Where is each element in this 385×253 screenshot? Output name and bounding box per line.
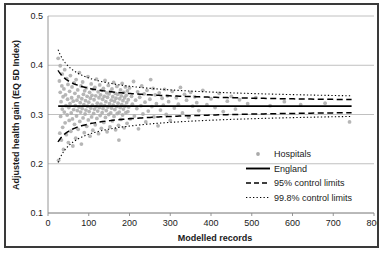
funnel-plot-chart: 0.10.20.30.40.5 010020030040050060070080… (6, 5, 377, 246)
x-tick-label: 100 (81, 218, 96, 228)
hospital-point (119, 88, 123, 92)
hospital-point (112, 115, 116, 119)
hospital-point (246, 102, 250, 106)
x-tick-label: 300 (163, 218, 178, 228)
hospital-point (109, 111, 113, 115)
hospital-point (144, 120, 148, 124)
legend-label: Hospitals (274, 149, 312, 159)
hospital-point (234, 107, 238, 111)
hospital-point (141, 112, 145, 116)
hospital-point (77, 95, 81, 99)
hospital-point (148, 97, 152, 101)
hospital-point (167, 100, 171, 104)
hospital-point (56, 56, 60, 60)
hospital-point (84, 108, 88, 112)
hospital-point (58, 79, 62, 83)
hospital-point (179, 86, 183, 90)
hospital-point (94, 94, 98, 98)
hospital-point (104, 109, 108, 113)
hospital-point (76, 88, 80, 92)
hospital-point (61, 125, 65, 129)
hospital-point (95, 117, 99, 121)
hospital-point (106, 95, 110, 99)
hospital-point (102, 94, 106, 98)
hospital-point (156, 124, 160, 128)
hospital-point (104, 116, 108, 120)
hospital-point (132, 80, 136, 84)
hospital-point (90, 93, 94, 97)
hospital-point (70, 85, 74, 89)
hospital-point (195, 101, 199, 105)
hospital-point (125, 121, 129, 125)
hospital-point (88, 90, 92, 94)
hospital-point (59, 115, 63, 119)
hospital-point (168, 119, 172, 123)
hospital-point (70, 96, 74, 100)
hospital-point (185, 98, 189, 102)
x-axis-title: Modelled records (178, 233, 253, 243)
hospital-point (63, 121, 67, 125)
hospital-point (73, 91, 77, 95)
hospital-point (117, 123, 121, 127)
hospital-point (89, 82, 93, 86)
x-tick-label: 600 (285, 218, 300, 228)
hospital-point (71, 99, 75, 103)
hospital-point (64, 93, 68, 97)
hospital-point (92, 112, 96, 116)
hospital-point (68, 89, 72, 93)
hospital-point (69, 129, 73, 133)
hospital-point (348, 120, 352, 124)
hospital-point (63, 68, 67, 72)
hospital-point (62, 87, 66, 91)
hospital-point (66, 97, 70, 101)
hospital-point (69, 74, 73, 78)
hospital-point (155, 102, 159, 106)
hospital-point (58, 90, 62, 94)
legend-label: England (274, 164, 307, 174)
hospital-point (124, 93, 128, 97)
hospital-point (126, 110, 130, 114)
hospital-point (75, 98, 79, 102)
plot-background (6, 5, 377, 246)
legend-label: 95% control limits (274, 178, 345, 188)
hospital-point (90, 115, 94, 119)
hospital-point (100, 111, 104, 115)
hospital-point (126, 98, 130, 102)
hospital-point (197, 109, 201, 113)
hospital-point (108, 102, 112, 106)
hospital-point (225, 99, 229, 103)
hospital-point (71, 117, 75, 121)
hospital-point (130, 94, 134, 98)
hospital-point (59, 100, 63, 104)
hospital-point (99, 126, 103, 130)
y-tick-label: 0.1 (30, 208, 43, 218)
legend-label: 99.8% control limits (274, 193, 353, 203)
hospital-point (69, 111, 73, 115)
hospital-point (132, 114, 136, 118)
hospital-point (83, 112, 87, 116)
hospital-point (91, 128, 95, 132)
hospital-point (111, 95, 115, 99)
hospital-point (74, 136, 78, 140)
hospital-point (85, 94, 89, 98)
hospital-point (117, 138, 121, 142)
hospital-point (110, 87, 114, 91)
hospital-point (97, 132, 101, 136)
hospital-point (146, 109, 150, 113)
x-tick-label: 400 (203, 218, 218, 228)
hospital-point (79, 110, 83, 114)
hospital-point (80, 107, 84, 111)
hospital-point (117, 110, 121, 114)
hospital-point (71, 144, 75, 148)
hospital-point (136, 90, 140, 94)
hospital-point (105, 130, 109, 134)
hospital-point (221, 110, 225, 114)
hospital-point (135, 107, 139, 111)
hospital-point (87, 110, 91, 114)
hospital-point (181, 111, 185, 115)
hospital-point (78, 120, 82, 124)
hospital-point (137, 127, 141, 131)
y-tick-label: 0.2 (30, 159, 43, 169)
hospital-point (96, 109, 100, 113)
hospital-point (102, 87, 106, 91)
